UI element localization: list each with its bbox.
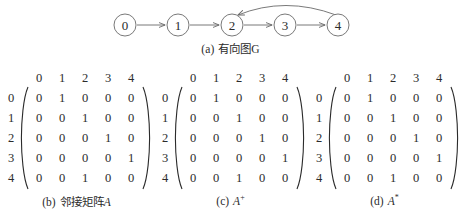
graph-node-4[interactable]: 4 xyxy=(327,14,349,36)
matrix-row: 00010 xyxy=(336,128,451,148)
matrix-row-header: 0 xyxy=(3,88,20,108)
matrix-cell: 0 xyxy=(359,108,382,128)
matrix-corner-cell xyxy=(157,70,174,86)
matrix-cell: 0 xyxy=(382,128,405,148)
matrix-cell: 0 xyxy=(97,108,120,128)
matrix-cell: 0 xyxy=(428,128,451,148)
matrix-col-header: 4 xyxy=(120,70,143,86)
matrix-cell: 0 xyxy=(228,148,251,168)
matrix-row-header: 4 xyxy=(3,168,20,188)
matrix-cell: 0 xyxy=(28,88,51,108)
matrix-cell: 0 xyxy=(359,148,382,168)
graph-caption-text: 有向图G xyxy=(218,43,260,55)
matrix-row: 00100 xyxy=(182,168,297,188)
matrix-row-header: 1 xyxy=(3,108,20,128)
matrix-cell: 1 xyxy=(51,88,74,108)
matrix-cell: 0 xyxy=(51,148,74,168)
matrix-cell: 0 xyxy=(51,108,74,128)
matrix-row: 01000 xyxy=(336,88,451,108)
matrix-cell: 0 xyxy=(428,108,451,128)
left-paren-icon xyxy=(174,86,183,190)
graph-node-3[interactable]: 3 xyxy=(274,14,296,36)
matrix-row: 01000 xyxy=(182,88,297,108)
matrix-cell: 0 xyxy=(120,128,143,148)
matrix-row-header: 2 xyxy=(3,128,20,148)
matrix-rows: 0100000100000100000100100 xyxy=(182,88,297,188)
matrix-cell: 0 xyxy=(405,108,428,128)
matrix-cell: 0 xyxy=(51,128,74,148)
matrix-row-header: 4 xyxy=(157,168,174,188)
matrix-caption: (b)邻接矩阵A xyxy=(42,193,110,209)
matrix-col-header: 1 xyxy=(359,70,382,86)
matrix-cell: 0 xyxy=(228,128,251,148)
matrix-row-header: 2 xyxy=(311,128,328,148)
graph-node-label-0: 0 xyxy=(122,18,129,33)
matrix-col-header: 0 xyxy=(182,70,205,86)
matrix-cell: 0 xyxy=(336,128,359,148)
matrix-cell: 0 xyxy=(97,168,120,188)
matrix-cell: 0 xyxy=(228,88,251,108)
matrix-row: 00100 xyxy=(336,108,451,128)
graph-node-1[interactable]: 1 xyxy=(167,14,189,36)
matrix-cell: 1 xyxy=(405,128,428,148)
matrix-caption-index: (d) xyxy=(370,195,383,207)
matrix-col-header: 0 xyxy=(28,70,51,86)
graph-node-label-1: 1 xyxy=(175,18,182,33)
matrix-cell: 0 xyxy=(28,168,51,188)
right-paren-icon xyxy=(142,86,151,190)
graph-node-0[interactable]: 0 xyxy=(114,14,136,36)
matrix-caption-text: 邻接矩阵 xyxy=(60,196,104,208)
matrix-caption-symbol: A xyxy=(388,195,395,207)
matrix-cell: 0 xyxy=(405,168,428,188)
matrix-col-header: 1 xyxy=(205,70,228,86)
matrix-cell: 0 xyxy=(405,148,428,168)
matrix-cell: 1 xyxy=(382,168,405,188)
graph-edge-4-to-2 xyxy=(238,6,336,16)
matrix-row-headers: 01234 xyxy=(3,86,20,190)
matrix-row-header: 0 xyxy=(311,88,328,108)
matrix-row-headers: 01234 xyxy=(157,86,174,190)
matrix-cell: 0 xyxy=(274,88,297,108)
matrix-caption-symbol: A xyxy=(104,196,111,208)
matrix-cell: 0 xyxy=(359,168,382,188)
matrix-row: 01000 xyxy=(28,88,143,108)
matrix-grid: 01234012340100000100000100000100100 xyxy=(3,70,151,190)
matrix-cell: 1 xyxy=(228,168,251,188)
matrix-cell: 0 xyxy=(182,128,205,148)
matrix-row-header: 0 xyxy=(157,88,174,108)
matrix-cell: 0 xyxy=(97,88,120,108)
matrix-cell: 0 xyxy=(74,148,97,168)
matrix-row-header: 3 xyxy=(311,148,328,168)
matrix-col-header: 0 xyxy=(336,70,359,86)
matrix-grid: 01234012340100000100000100000100100 xyxy=(157,70,305,190)
matrix-cell: 0 xyxy=(28,128,51,148)
right-paren-icon xyxy=(450,86,459,190)
matrix-caption-index: (b) xyxy=(42,196,55,208)
matrix-cell: 0 xyxy=(28,108,51,128)
matrix-column-headers: 01234 xyxy=(20,70,151,86)
matrix-cell: 0 xyxy=(274,108,297,128)
directed-graph-panel: 01234 (a)有向图G xyxy=(0,0,461,62)
matrix-corner-cell xyxy=(311,70,328,86)
matrix-row-header: 1 xyxy=(311,108,328,128)
left-paren-icon xyxy=(20,86,29,190)
matrix-cell: 0 xyxy=(205,168,228,188)
matrix-block-c: 01234012340100000100000100000100100(c)A+ xyxy=(154,70,307,207)
matrix-cell: 1 xyxy=(228,108,251,128)
matrix-grid: 01234012340100000100000100000100100 xyxy=(311,70,459,190)
matrix-cell: 1 xyxy=(74,168,97,188)
matrix-cell: 0 xyxy=(28,148,51,168)
matrix-cell: 0 xyxy=(182,88,205,108)
matrix-cell: 1 xyxy=(74,108,97,128)
matrix-cell: 0 xyxy=(336,168,359,188)
matrix-cell: 0 xyxy=(428,88,451,108)
matrix-cell: 1 xyxy=(382,108,405,128)
graph-node-2[interactable]: 2 xyxy=(221,14,243,36)
matrix-col-header: 3 xyxy=(405,70,428,86)
matrix-cell: 1 xyxy=(359,88,382,108)
matrix-col-header: 2 xyxy=(228,70,251,86)
graph-node-label-4: 4 xyxy=(335,18,342,33)
matrix-cell: 0 xyxy=(120,168,143,188)
matrix-cell: 0 xyxy=(182,168,205,188)
matrix-cell: 0 xyxy=(74,88,97,108)
